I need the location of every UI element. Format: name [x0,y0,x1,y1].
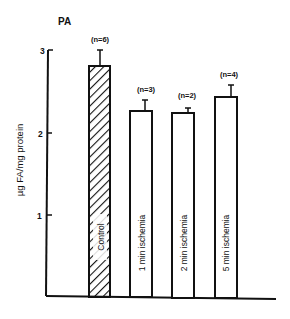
y-axis-label: µg FA/mg protein [14,124,25,197]
bar-control: (n=6) Control [89,35,110,297]
bar-label: 2 min ischemia [179,214,189,271]
n-label: (n=4) [220,70,239,79]
n-label: (n=3) [137,85,156,94]
x-axis [46,296,276,299]
bar-1-min-ischemia: (n=3) 1 min ischemia [130,85,156,297]
y-ticks: 3 2 1 [37,46,53,221]
bar-label: Control [96,223,106,251]
chart-title: PA [58,16,71,27]
bar-label: 5 min ischemia [221,214,231,271]
bar-2-min-ischemia: (n=2) 2 min ischemia [172,91,197,298]
n-label: (n=6) [91,35,110,44]
n-label: (n=2) [178,91,197,100]
ytick-label-2: 2 [38,129,43,139]
bar-chart: PA µg FA/mg protein 3 2 1 (n=6) Control … [0,0,290,319]
ytick-label-1: 1 [37,211,42,221]
y-axis [46,50,48,296]
ytick-label-3: 3 [40,46,45,56]
bar-5-min-ischemia: (n=4) 5 min ischemia [215,70,239,298]
bar-label: 1 min ischemia [137,214,147,271]
